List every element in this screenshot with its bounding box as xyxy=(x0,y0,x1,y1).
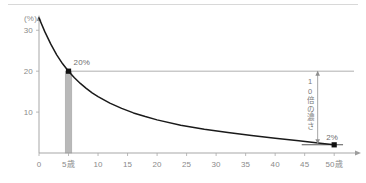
x-tick-label-5: 5歳 xyxy=(54,160,84,169)
y-tick-label-10: 10 xyxy=(13,108,33,117)
marker-20-percent xyxy=(66,69,71,74)
series-line-decay-curve xyxy=(39,18,334,145)
bar-group xyxy=(65,71,71,153)
x-tick-label-15: 15 xyxy=(113,160,143,169)
arrow-group xyxy=(315,71,320,145)
x-tick-label-50: 50歳 xyxy=(319,160,349,169)
x-tick-label-10: 10 xyxy=(83,160,113,169)
annotation-2-percent: 2% xyxy=(326,133,338,142)
y-axis-unit-label: (%) xyxy=(24,14,37,23)
annotation-20-percent: 20% xyxy=(74,58,91,67)
y-tick-label-20: 20 xyxy=(13,67,33,76)
marker-group xyxy=(66,69,337,148)
y-tick-label-30: 30 xyxy=(13,26,33,35)
x-tick-label-45: 45 xyxy=(290,160,320,169)
chart-page: (%) 102030 05歳101520253035404550歳 20% 2%… xyxy=(0,0,366,183)
x-tick-label-30: 30 xyxy=(201,160,231,169)
series-group xyxy=(39,18,334,145)
x-tick-label-0: 0 xyxy=(24,160,54,169)
x-tick-label-40: 40 xyxy=(260,160,290,169)
age-5-bar xyxy=(65,71,71,153)
x-tick-label-20: 20 xyxy=(142,160,172,169)
annotation-ratio-note: 10倍の濃さ xyxy=(304,77,315,130)
marker-2-percent xyxy=(332,142,337,147)
x-tick-label-25: 25 xyxy=(172,160,202,169)
x-tick-label-35: 35 xyxy=(231,160,261,169)
axis-x-arrowhead xyxy=(355,151,361,156)
